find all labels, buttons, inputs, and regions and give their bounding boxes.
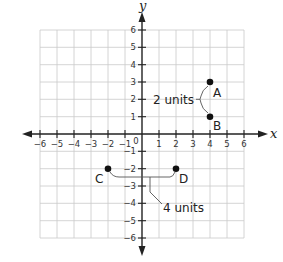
x-tick-label: 5 [224, 139, 229, 149]
x-tick-label: −3 [85, 139, 98, 149]
y-tick-label: 6 [131, 25, 136, 35]
ab-distance-label: 2 units [153, 93, 194, 107]
y-tick-label: −3 [123, 181, 136, 191]
x-tick-labels: −6 −5 −4 −3 −2 −1 0 1 2 3 4 5 6 [34, 136, 247, 149]
y-tick-label: 5 [131, 42, 136, 52]
point-d [173, 165, 180, 172]
y-tick-label: −2 [123, 164, 136, 174]
cd-leader-line [150, 177, 162, 204]
point-a [207, 79, 214, 86]
y-tick-label: 1 [131, 112, 136, 122]
y-axis-label: y [138, 0, 147, 13]
y-tick-label: 4 [131, 60, 136, 70]
point-b-label: B [213, 119, 221, 133]
x-tick-label: −5 [51, 139, 64, 149]
origin-label: 0 [133, 136, 138, 146]
x-axis-label: x [270, 126, 278, 141]
x-tick-label: −6 [34, 139, 47, 149]
point-a-label: A [213, 86, 222, 100]
x-tick-label: −2 [102, 139, 115, 149]
x-axis-left-arrow-icon [22, 131, 32, 138]
y-axis-up-arrow-icon [139, 12, 146, 22]
x-tick-label: 3 [190, 139, 195, 149]
x-tick-label: 4 [207, 139, 212, 149]
y-tick-label: 2 [131, 94, 136, 104]
x-tick-label: 2 [173, 139, 178, 149]
y-tick-label: −6 [123, 233, 136, 243]
point-c [105, 165, 112, 172]
y-tick-label: −1 [123, 146, 136, 156]
y-axis-down-arrow-icon [139, 246, 146, 256]
y-tick-label: −4 [123, 198, 136, 208]
y-tick-label: −5 [123, 216, 136, 226]
x-tick-label: 6 [241, 139, 246, 149]
coordinate-plane: x y −6 −5 −4 −3 −2 −1 0 1 2 3 4 5 6 6 5 … [0, 0, 283, 262]
point-c-label: C [95, 172, 103, 186]
point-d-label: D [179, 172, 188, 186]
x-tick-label: −4 [68, 139, 81, 149]
y-tick-label: 3 [131, 77, 136, 87]
x-axis-right-arrow-icon [258, 131, 268, 138]
x-tick-label: 1 [156, 139, 161, 149]
cd-distance-label: 4 units [163, 201, 204, 215]
